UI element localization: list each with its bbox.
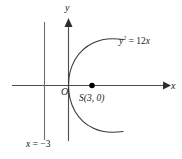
- figure-canvas: [0, 0, 182, 159]
- parabola-equation-label: y2 = 12x: [119, 37, 150, 47]
- parabola-figure: y x O S(3, 0) y2 = 12x x = −3: [0, 0, 182, 159]
- directrix-value: = −3: [30, 139, 50, 149]
- y-axis-label: y: [65, 3, 69, 13]
- x-axis-label: x: [171, 81, 175, 91]
- equation-rhs: = 12: [126, 36, 146, 46]
- parabola-upper-branch: [69, 39, 124, 86]
- x-axis-arrowhead: [163, 82, 171, 90]
- origin-label: O: [61, 87, 68, 97]
- focus-point-marker: [89, 83, 95, 89]
- focus-point-label: S(3, 0): [79, 94, 104, 104]
- directrix-label: x = −3: [26, 140, 50, 150]
- y-axis-arrowhead: [65, 18, 73, 27]
- equation-variable: x: [146, 36, 150, 46]
